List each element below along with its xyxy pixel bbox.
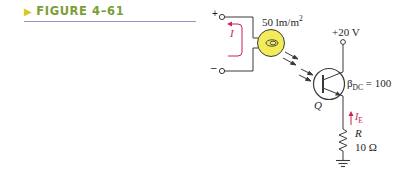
emitter-current-label: IE [355, 111, 363, 125]
minus-terminal-label: – [211, 62, 217, 73]
figure-4-61: ▶FIGURE 4–61 [0, 0, 418, 178]
plus-terminal-label: + [212, 8, 218, 19]
emitter-current-arrow-icon [349, 111, 354, 125]
photocell-icon [258, 30, 285, 57]
transistor-label: Q [314, 99, 322, 111]
resistor-value: 10 Ω [355, 141, 377, 153]
resistor-icon [339, 129, 347, 151]
loop-current-label: I [230, 27, 234, 39]
ground-icon [336, 161, 350, 167]
illuminance-label: 50 lm/m2 [262, 14, 303, 28]
plus-terminal-icon [219, 14, 224, 19]
light-rays-icon [283, 52, 313, 81]
beta-label: βDC = 100 [347, 77, 391, 92]
phototransistor-icon [314, 69, 345, 100]
wire-bottom [225, 48, 258, 71]
supply-terminal-icon [341, 40, 346, 45]
supply-voltage-label: +20 V [332, 26, 360, 38]
minus-terminal-icon [219, 68, 224, 73]
resistor-label: R [355, 127, 362, 139]
